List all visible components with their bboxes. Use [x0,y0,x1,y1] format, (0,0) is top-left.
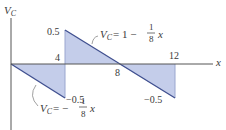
svg-text:x: x [89,102,95,114]
tick-label-12: 12 [169,50,179,61]
tick-label-8: 8 [115,67,120,78]
tick-label-4: 4 [55,52,60,63]
value-label-bottom-right: −0.5 [144,94,162,105]
svg-text:1: 1 [81,96,86,106]
x-axis-label: x [215,56,221,68]
leader-curve-eq2 [32,85,38,106]
leader-curve-eq1 [92,36,98,44]
svg-text:VC= 1 −: VC= 1 − [100,28,137,42]
value-label-top: 0.5 [47,26,60,37]
svg-text:1: 1 [149,22,154,32]
waveform-diagram: VC x 4 8 12 0.5 −0.5 −0.5 VC= 1 − 1 8 x … [0,0,226,130]
svg-text:VC= −: VC= − [40,102,68,116]
svg-text:8: 8 [149,34,154,44]
svg-text:8: 8 [81,109,86,119]
equation-upper: VC= 1 − 1 8 x [100,22,163,44]
svg-text:x: x [157,28,163,40]
y-axis-label: VC [4,4,17,18]
